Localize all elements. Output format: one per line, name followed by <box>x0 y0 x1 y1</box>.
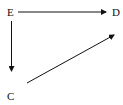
edges-layer <box>0 0 123 105</box>
edge-c-to-d <box>27 35 114 83</box>
node-c-label: C <box>7 91 14 102</box>
graph-diagram: E D C <box>0 0 123 105</box>
node-d-label: D <box>112 7 120 18</box>
node-e-label: E <box>7 7 14 18</box>
